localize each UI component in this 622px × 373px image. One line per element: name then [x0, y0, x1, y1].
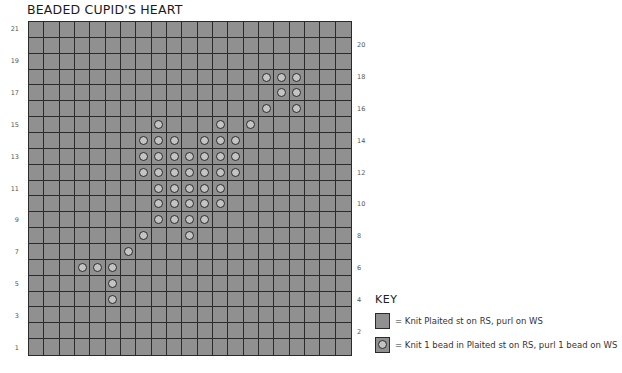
chart-cell: [75, 212, 90, 228]
chart-cell: [228, 22, 243, 38]
chart-cell: [44, 133, 59, 149]
chart-cell: [29, 323, 44, 339]
chart-cell: [244, 54, 259, 70]
chart-cell: [152, 276, 167, 292]
chart-cell: [320, 228, 335, 244]
chart-cell: [290, 212, 305, 228]
chart-cell: [90, 117, 105, 133]
chart-cell: [213, 70, 228, 86]
chart-cell: [106, 54, 121, 70]
bead-icon: [200, 168, 209, 177]
chart-cell: [106, 212, 121, 228]
chart-cell: [320, 101, 335, 117]
chart-cell: [244, 212, 259, 228]
row-number-label: 6: [357, 264, 371, 272]
chart-cell: [198, 22, 213, 38]
chart-cell: [136, 38, 151, 54]
chart-cell: [213, 292, 228, 308]
chart-cell: [167, 339, 182, 355]
row-number-label: 13: [5, 153, 19, 161]
chart-cell: [305, 307, 320, 323]
chart-cell: [274, 54, 289, 70]
chart-cell: [228, 307, 243, 323]
row-number-label: 8: [357, 232, 371, 240]
chart-cell: [121, 85, 136, 101]
chart-cell: [213, 276, 228, 292]
chart-cell: [244, 307, 259, 323]
chart-cell: [167, 276, 182, 292]
chart-cell: [60, 101, 75, 117]
chart-cell: [75, 228, 90, 244]
chart-cell: [244, 149, 259, 165]
chart-cell: [182, 323, 197, 339]
chart-cell: [29, 181, 44, 197]
chart-cell: [336, 307, 351, 323]
chart-cell: [320, 165, 335, 181]
chart-cell: [305, 292, 320, 308]
chart-cell: [90, 339, 105, 355]
bead-icon: [185, 184, 194, 193]
chart-cell: [336, 149, 351, 165]
chart-cell: [29, 196, 44, 212]
chart-cell: [60, 196, 75, 212]
chart-cell: [198, 292, 213, 308]
chart-cell: [29, 149, 44, 165]
chart-cell: [44, 339, 59, 355]
chart-cell: [75, 70, 90, 86]
chart-cell: [121, 101, 136, 117]
chart-cell: [305, 149, 320, 165]
chart-cell: [320, 70, 335, 86]
chart-cell: [75, 292, 90, 308]
chart-cell: [121, 292, 136, 308]
chart-cell: [121, 228, 136, 244]
chart-cell: [290, 244, 305, 260]
chart-cell: [60, 149, 75, 165]
chart-cell: [75, 54, 90, 70]
bead-icon: [170, 199, 179, 208]
chart-cell: [44, 196, 59, 212]
chart-cell: [44, 70, 59, 86]
bead-icon: [378, 340, 387, 349]
chart-cell: [228, 323, 243, 339]
chart-cell: [259, 22, 274, 38]
chart-cell: [75, 181, 90, 197]
chart-cell: [152, 54, 167, 70]
chart-cell: [44, 38, 59, 54]
chart-cell: [259, 339, 274, 355]
chart-cell: [336, 22, 351, 38]
chart-cell: [44, 149, 59, 165]
chart-cell: [44, 276, 59, 292]
chart-cell: [75, 22, 90, 38]
chart-cell: [320, 196, 335, 212]
chart-cell: [136, 276, 151, 292]
chart-cell: [121, 260, 136, 276]
chart-cell: [259, 212, 274, 228]
chart-cell: [121, 196, 136, 212]
chart-cell: [182, 70, 197, 86]
chart-cell: [259, 307, 274, 323]
chart-cell: [320, 181, 335, 197]
chart-cell: [182, 292, 197, 308]
bead-icon: [154, 184, 163, 193]
chart-cell: [29, 339, 44, 355]
chart-cell: [167, 244, 182, 260]
chart-cell: [90, 181, 105, 197]
chart-cell: [90, 292, 105, 308]
chart-cell: [305, 181, 320, 197]
chart-cell: [305, 196, 320, 212]
chart-cell: [320, 276, 335, 292]
chart-cell: [136, 292, 151, 308]
chart-cell: [228, 101, 243, 117]
chart-cell: [336, 228, 351, 244]
chart-cell: [167, 292, 182, 308]
chart-cell: [274, 244, 289, 260]
chart-cell: [274, 165, 289, 181]
row-number-label: 21: [5, 25, 19, 33]
chart-cell: [44, 101, 59, 117]
chart-cell: [228, 70, 243, 86]
chart-cell: [106, 85, 121, 101]
chart-cell: [60, 292, 75, 308]
chart-cell: [290, 165, 305, 181]
chart-cell: [259, 292, 274, 308]
chart-cell: [106, 165, 121, 181]
